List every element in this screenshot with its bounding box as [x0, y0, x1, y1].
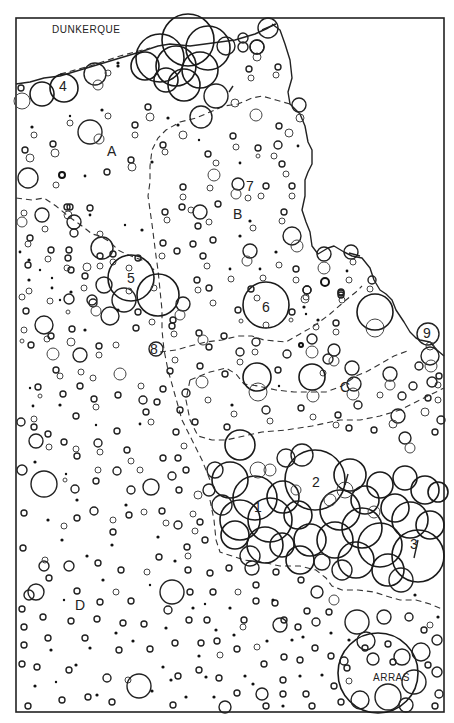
zone-label-b: B	[233, 206, 242, 222]
zone-label-a: A	[107, 143, 117, 159]
cluster-label-4: 4	[59, 78, 67, 94]
city-label-dunkerque: DUNKERQUE	[52, 24, 120, 35]
cluster-label-2: 2	[312, 474, 320, 490]
cluster-label-8: 8	[150, 341, 158, 357]
cluster-label-6: 6	[262, 299, 270, 315]
cluster-label-7: 7	[246, 178, 254, 194]
zone-label-d: D	[75, 597, 85, 613]
cluster-label-1: 1	[254, 499, 262, 515]
city-label-arras: ARRAS	[373, 672, 410, 683]
cluster-label-3: 3	[410, 536, 418, 552]
zone-boundary-a-d	[16, 198, 154, 270]
cluster-label-5: 5	[127, 270, 135, 286]
zone-boundary-b-c	[160, 286, 362, 352]
circle-mark	[229, 86, 233, 92]
circle-mark	[262, 24, 276, 30]
cluster-label-9: 9	[423, 325, 431, 341]
zone-boundary-a-b	[148, 96, 290, 480]
zone-label-c: C	[340, 379, 350, 395]
settlement-map: DUNKERQUE ARRAS A B C D 1 2 3 4 5 6 7 8 …	[0, 0, 454, 723]
